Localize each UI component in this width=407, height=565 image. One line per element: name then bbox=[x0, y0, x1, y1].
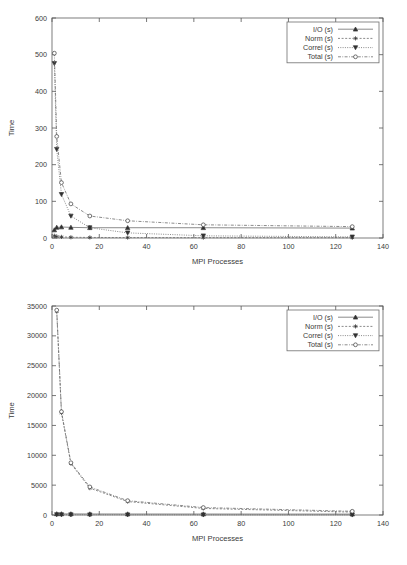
y-tick-label: 400 bbox=[35, 87, 47, 96]
x-tick-label: 100 bbox=[282, 519, 294, 528]
legend-label: Norm (s) bbox=[305, 34, 333, 43]
x-tick-label: 0 bbox=[50, 519, 54, 528]
series-line-3 bbox=[54, 53, 352, 226]
y-tick-label: 0 bbox=[43, 511, 47, 520]
legend: I/O (s)Norm (s)Correl (s)Total (s) bbox=[287, 310, 379, 351]
legend-label: Total (s) bbox=[307, 52, 333, 61]
x-tick-label: 80 bbox=[237, 519, 245, 528]
marker-circle-open-icon bbox=[55, 308, 59, 312]
y-axis-title: Time bbox=[7, 120, 16, 137]
x-tick-label: 40 bbox=[143, 519, 151, 528]
plot-area: 0204060801001201400100200300400500600MPI… bbox=[7, 14, 389, 266]
series-line-2 bbox=[54, 63, 352, 236]
marker-circle-open-icon bbox=[60, 181, 64, 185]
y-tick-label: 600 bbox=[35, 14, 47, 23]
y-tick-label: 30000 bbox=[27, 331, 47, 340]
figure-page: 0204060801001201400100200300400500600MPI… bbox=[0, 0, 407, 565]
y-tick-label: 200 bbox=[35, 160, 47, 169]
x-tick-label: 60 bbox=[190, 242, 198, 251]
marker-circle-open-icon bbox=[69, 461, 73, 465]
x-tick-label: 0 bbox=[50, 242, 54, 251]
marker-triangle-down-icon bbox=[59, 192, 63, 196]
marker-circle-open-icon bbox=[60, 410, 64, 414]
marker-circle-open-icon bbox=[350, 225, 354, 229]
y-tick-label: 500 bbox=[35, 50, 47, 59]
marker-circle-open-icon bbox=[126, 499, 130, 503]
x-tick-label: 120 bbox=[330, 242, 342, 251]
legend-label: Total (s) bbox=[307, 340, 333, 349]
chart-bottom: 0204060801001201400500010000150002000025… bbox=[0, 288, 407, 565]
chart-top: 0204060801001201400100200300400500600MPI… bbox=[0, 0, 407, 288]
legend-label: I/O (s) bbox=[313, 313, 333, 322]
x-tick-label: 120 bbox=[330, 519, 342, 528]
marker-circle-open-icon bbox=[55, 135, 59, 139]
y-tick-label: 0 bbox=[43, 234, 47, 243]
plot-frame bbox=[52, 18, 383, 238]
marker-circle-open-icon bbox=[52, 51, 56, 55]
chart-bottom-canvas: 0204060801001201400500010000150002000025… bbox=[0, 288, 407, 565]
legend-label: Norm (s) bbox=[305, 322, 333, 331]
marker-circle-open-icon bbox=[126, 219, 130, 223]
legend: I/O (s)Norm (s)Correl (s)Total (s) bbox=[287, 22, 379, 63]
marker-circle-open-icon bbox=[201, 506, 205, 510]
marker-circle-open-icon bbox=[354, 55, 358, 59]
marker-triangle-down-icon bbox=[69, 214, 73, 218]
y-tick-label: 15000 bbox=[27, 421, 47, 430]
marker-circle-open-icon bbox=[350, 509, 354, 513]
x-tick-label: 40 bbox=[143, 242, 151, 251]
x-tick-label: 140 bbox=[377, 242, 389, 251]
plot-frame bbox=[52, 306, 383, 515]
legend-label: Correl (s) bbox=[303, 331, 333, 340]
marker-circle-open-icon bbox=[88, 214, 92, 218]
legend-label: I/O (s) bbox=[313, 25, 333, 34]
x-tick-label: 100 bbox=[282, 242, 294, 251]
y-tick-label: 100 bbox=[35, 197, 47, 206]
x-axis-title: MPI Processes bbox=[192, 534, 243, 543]
x-axis-title: MPI Processes bbox=[192, 257, 243, 266]
marker-circle-open-icon bbox=[88, 485, 92, 489]
marker-circle-open-icon bbox=[69, 202, 73, 206]
marker-circle-open-icon bbox=[354, 343, 358, 347]
legend-label: Correl (s) bbox=[303, 43, 333, 52]
x-tick-label: 20 bbox=[95, 242, 103, 251]
y-tick-label: 25000 bbox=[27, 361, 47, 370]
x-tick-label: 140 bbox=[377, 519, 389, 528]
x-tick-label: 80 bbox=[237, 242, 245, 251]
y-tick-label: 35000 bbox=[27, 302, 47, 311]
y-tick-label: 300 bbox=[35, 124, 47, 133]
x-tick-label: 60 bbox=[190, 519, 198, 528]
y-tick-label: 20000 bbox=[27, 391, 47, 400]
chart-top-canvas: 0204060801001201400100200300400500600MPI… bbox=[0, 0, 407, 288]
y-axis-title: Time bbox=[7, 402, 16, 419]
y-tick-label: 10000 bbox=[27, 451, 47, 460]
marker-circle-open-icon bbox=[201, 223, 205, 227]
plot-area: 0204060801001201400500010000150002000025… bbox=[7, 302, 389, 543]
y-tick-label: 5000 bbox=[31, 481, 47, 490]
x-tick-label: 20 bbox=[95, 519, 103, 528]
